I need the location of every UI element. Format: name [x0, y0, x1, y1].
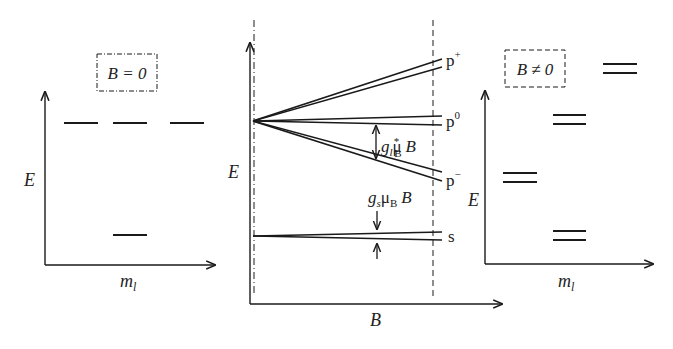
- center-e-label: E: [227, 162, 239, 182]
- p-zero-label: p0: [446, 109, 461, 131]
- p-plus-pair: [603, 64, 637, 73]
- p-zero-pair: [553, 115, 586, 124]
- right-level-pairs: [503, 64, 637, 240]
- p-plus-line-lower: [253, 67, 442, 121]
- center-panel: p+ p0 p− s glμ*BB gsμBB E B: [227, 20, 502, 330]
- left-ml-label: ml: [120, 271, 137, 294]
- s-pair: [553, 231, 586, 240]
- p-zero-line-lower: [253, 121, 442, 125]
- right-ml-label: ml: [558, 271, 575, 294]
- s-line-upper: [253, 232, 442, 236]
- left-levels: [64, 123, 204, 235]
- right-panel: B ≠ 0 E ml: [467, 50, 653, 294]
- zeeman-diagram: B = 0 E ml p: [0, 0, 673, 349]
- p-minus-label: p−: [446, 168, 461, 190]
- p-splitting-label: glμ*BB: [381, 135, 417, 159]
- p-zero-line-upper: [253, 116, 442, 121]
- b-nonzero-label: B ≠ 0: [517, 60, 554, 79]
- s-splitting-label: gsμBB: [368, 188, 412, 209]
- s-line-lower: [253, 236, 442, 240]
- b-zero-label: B = 0: [108, 64, 147, 83]
- p-plus-line-upper: [253, 59, 442, 121]
- right-e-label: E: [467, 190, 479, 210]
- left-panel: B = 0 E ml: [23, 54, 215, 294]
- p-plus-label: p+: [446, 48, 461, 70]
- s-label: s: [448, 227, 455, 246]
- left-e-label: E: [23, 170, 35, 190]
- center-b-label: B: [370, 310, 381, 330]
- p-minus-pair: [503, 173, 537, 182]
